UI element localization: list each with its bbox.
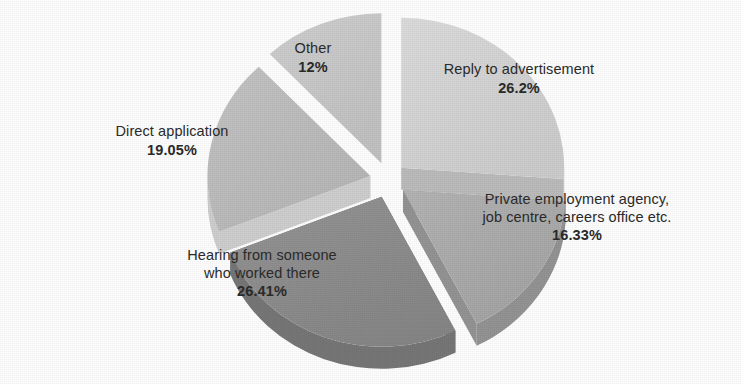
slice-label-direct: Direct application 19.05% (115, 123, 228, 159)
slice-label-agency: Private employment agency, job centre, c… (482, 191, 671, 245)
pie-chart: Reply to advertisement 26.2% Private emp… (0, 0, 741, 384)
slice-label-agency-value: 16.33% (482, 227, 671, 245)
slice-label-direct-value: 19.05% (115, 142, 228, 160)
slice-label-other-text: Other (295, 40, 332, 58)
slice-label-reply: Reply to advertisement 26.2% (444, 61, 595, 97)
slice-label-reply-text: Reply to advertisement (444, 61, 595, 79)
slice-label-hearing-text-line2: who worked there (187, 265, 337, 283)
slice-label-hearing-text-line1: Hearing from someone (187, 247, 337, 265)
slice-label-direct-text: Direct application (115, 123, 228, 141)
slice-label-hearing-value: 26.41% (187, 283, 337, 301)
slice-label-hearing: Hearing from someone who worked there 26… (187, 247, 337, 301)
slice-label-agency-text-line2: job centre, careers office etc. (482, 209, 671, 227)
slice-label-agency-text-line1: Private employment agency, (482, 191, 671, 209)
slice-label-other: Other 12% (295, 40, 332, 76)
slice-label-other-value: 12% (295, 59, 332, 77)
slice-top[interactable] (401, 18, 564, 179)
slice-label-reply-value: 26.2% (444, 80, 595, 98)
